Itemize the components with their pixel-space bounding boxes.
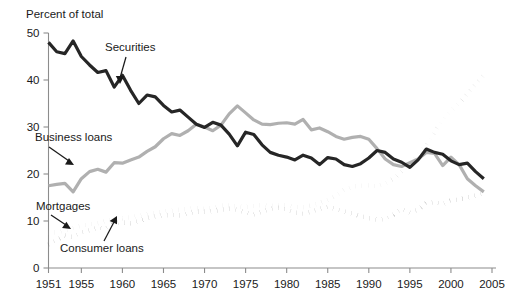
series-securities: [49, 41, 484, 179]
chart-container: Percent of total 01020304050 19511955196…: [0, 0, 508, 297]
series-layer: [49, 41, 484, 245]
percent-of-total-line-chart: Percent of total 01020304050 19511955196…: [0, 0, 508, 297]
x-tick-label: 1980: [274, 278, 300, 290]
y-tick-label: 50: [27, 27, 40, 39]
consumer-loans-annotation-label: Consumer loans: [60, 242, 144, 254]
x-tick-label: 2005: [479, 278, 505, 290]
annotations-layer: Securities Business loans Mortgages Cons…: [35, 41, 156, 254]
y-axis-title: Percent of total: [26, 8, 103, 20]
x-tick-label: 1995: [397, 278, 423, 290]
y-tick-label: 0: [33, 262, 39, 274]
consumer-loans-annotation-arrow: [104, 222, 114, 241]
securities-annotation-label: Securities: [105, 41, 156, 53]
mortgages-annotation-label: Mortgages: [36, 200, 91, 212]
x-tick-label: 1975: [233, 278, 259, 290]
y-axis-ticks: 01020304050: [27, 27, 49, 274]
x-tick-label: 1990: [356, 278, 382, 290]
x-tick-label: 2000: [438, 278, 464, 290]
x-tick-label: 1951: [36, 278, 62, 290]
y-tick-label: 10: [27, 215, 40, 227]
x-tick-label: 1955: [69, 278, 95, 290]
business-loans-annotation-label: Business loans: [35, 131, 113, 143]
x-tick-label: 1985: [315, 278, 341, 290]
x-axis-ticks: 1951195519601965197019751980198519901995…: [36, 268, 505, 290]
x-tick-label: 1970: [192, 278, 218, 290]
x-tick-label: 1960: [110, 278, 136, 290]
mortgages-annotation-arrow: [51, 215, 66, 225]
x-tick-label: 1965: [151, 278, 177, 290]
business-loans-annotation-arrow: [49, 147, 69, 161]
y-tick-label: 40: [27, 74, 40, 86]
y-tick-label: 20: [27, 168, 40, 180]
series-mortgages: [49, 75, 484, 232]
